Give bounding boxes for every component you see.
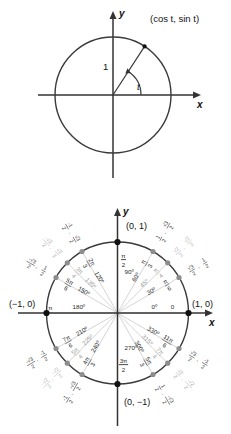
coord-denominator: 2 [204, 262, 210, 269]
degree-label-30: 30º [145, 285, 157, 296]
coord-denominator: 2 [67, 399, 74, 405]
radian-denominator: 3 [90, 361, 97, 367]
coordinate-label-315: √22,-√22 [171, 367, 196, 392]
coordinate-label-135: -√22,√22 [39, 235, 64, 260]
degree-value: 30º [145, 285, 157, 296]
coordinate-label-210: -√32,-12 [24, 349, 50, 372]
coord-denominator: 2 [57, 373, 63, 379]
coord-denominator: 2 [161, 400, 168, 406]
coord-comma: , [68, 230, 74, 235]
coordinate-label-330: √32,-12 [186, 349, 211, 371]
coord-comma: , [196, 356, 201, 362]
coord-denominator: 2 [168, 225, 175, 231]
circle-point-135 [65, 260, 70, 265]
coord-denominator: 2 [52, 252, 58, 258]
radian-denominator: 3 [139, 362, 146, 368]
bottom-y-axis-label: y [122, 206, 129, 217]
radian-label-30: π6 [162, 278, 173, 292]
degree-value: 180º [73, 303, 86, 310]
bottom-figure-container: 00ºπ630ºπ445ºπ360ºπ290º2π3120º3π4135º5π6… [0, 190, 231, 434]
terminal-point-dot [143, 44, 147, 48]
coordinate-label-45: √22,√22 [172, 235, 196, 259]
degree-label-0: 0º [152, 303, 158, 310]
circle-point-315 [165, 361, 170, 366]
bottom-x-axis-arrowhead [205, 310, 213, 317]
circle-point-90 [114, 239, 120, 245]
circle-point-60 [150, 249, 155, 254]
circle-point-240 [79, 372, 84, 377]
radian-value: π [48, 304, 52, 311]
coord-denominator: 2 [191, 270, 197, 277]
circle-point-0 [185, 310, 191, 316]
circle-point-300 [150, 372, 155, 377]
coordinate-label-240: -12,-√32 [61, 379, 84, 405]
degree-value: 45º [138, 277, 150, 289]
coord-denominator: 2 [200, 363, 206, 370]
coord-comma: , [49, 244, 55, 250]
coordinate-label-30: √32,12 [186, 256, 210, 277]
top-y-axis-label: y [118, 8, 125, 19]
coord-denominator: 2 [30, 363, 36, 370]
coord-comma: , [161, 230, 167, 235]
coord-comma: , [35, 356, 40, 362]
bottom-y-axis-arrowhead [114, 208, 121, 216]
coord-denominator: 2 [188, 241, 194, 247]
x-axis-arrowhead [193, 92, 201, 99]
coord-comma: , [68, 391, 74, 396]
coordinate-label-150: -√32,12 [23, 255, 48, 277]
coord-denominator: 2 [187, 356, 193, 363]
coord-denominator: 2 [26, 263, 32, 270]
coord-denominator: 2 [39, 270, 45, 277]
coord-comma: , [49, 375, 55, 381]
coord-denominator: 2 [172, 373, 178, 379]
circle-point-45 [165, 260, 170, 265]
radian-label-0: 0 [171, 303, 175, 310]
coord-denominator: 2 [160, 238, 167, 244]
coordinate-label-300: 12,-√32 [153, 382, 175, 407]
radian-numerator: 3π [120, 357, 128, 364]
cardinal-label-1-0: (1, 0) [192, 299, 213, 309]
cos-sin-point-label: (cos t, sin t) [150, 13, 199, 24]
radian-label-300: 5π3 [138, 356, 154, 369]
circle-point-270 [114, 381, 120, 387]
radian-denominator: 6 [63, 285, 69, 292]
radian-label-45: π4 [152, 267, 165, 280]
coord-comma: , [35, 263, 40, 269]
coord-denominator: 2 [43, 355, 49, 362]
coordinate-label-120: -12,√32 [60, 221, 82, 246]
radian-value: 0 [171, 303, 175, 310]
coord-comma: , [180, 244, 186, 250]
angle-t-label: t [137, 81, 140, 92]
degree-value: 0º [152, 303, 158, 310]
coord-denominator: 2 [178, 252, 184, 258]
radian-label-60: π3 [139, 258, 153, 269]
radian-denominator: 6 [166, 285, 172, 292]
coord-comma: , [181, 376, 187, 382]
radian-denominator: 2 [122, 366, 126, 373]
unit-circle-values-svg: 00ºπ630ºπ445ºπ360ºπ290º2π3120º3π4135º5π6… [0, 190, 231, 434]
radian-numerator: π [121, 252, 125, 259]
cardinal-label-0-1: (0, 1) [126, 221, 147, 231]
degree-label-180: 180º [73, 303, 86, 310]
circle-point-210 [53, 346, 58, 351]
radian-label-180: π [48, 304, 52, 311]
bottom-x-axis-label: x [208, 317, 215, 328]
coord-denominator: 2 [41, 242, 47, 248]
unit-circle-definition-svg: x y (cos t, sin t) 1 t [0, 0, 231, 190]
radian-label-150: 5π6 [61, 277, 74, 293]
circle-point-330 [176, 346, 181, 351]
coord-denominator: 2 [154, 387, 161, 393]
circle-point-120 [79, 249, 84, 254]
radian-label-270: 3π2 [119, 357, 128, 373]
coord-comma: , [196, 263, 201, 269]
coordinate-label-225: -√22,-√22 [39, 365, 65, 391]
coord-denominator: 2 [46, 383, 52, 389]
coord-comma: , [161, 391, 167, 396]
radian-label-90: π2 [121, 252, 126, 268]
degree-label-45: 45º [138, 277, 150, 289]
cardinal-label-0-neg1: (0, −1) [124, 397, 150, 407]
radian-label-240: 4π3 [82, 356, 98, 369]
circle-point-30 [176, 275, 181, 280]
degree-label-90: 90º [125, 268, 135, 275]
degree-value: 90º [125, 268, 135, 275]
